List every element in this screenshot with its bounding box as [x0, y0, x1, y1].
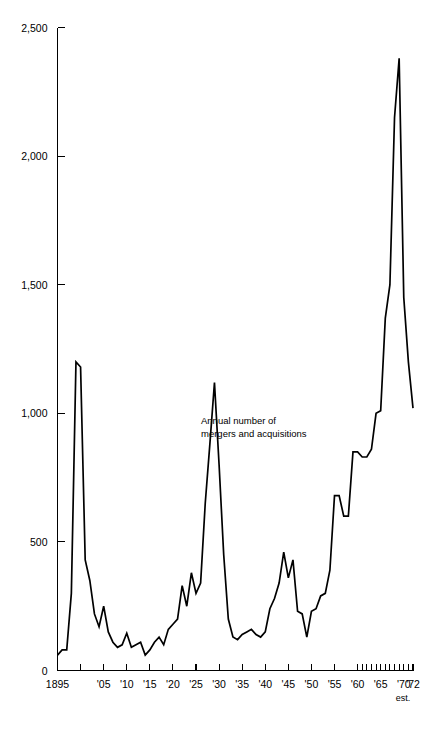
x-tick-label: '25: [189, 678, 203, 690]
chart-svg: 05001,0001,5002,0002,500 1895'05'10'15'2…: [0, 0, 423, 731]
x-tick-label: '10: [120, 678, 134, 690]
y-tick-label: 1,500: [21, 279, 47, 291]
x-tick-label: '55: [328, 678, 342, 690]
y-tick-label: 2,000: [21, 150, 47, 162]
y-axis-tick-labels: 05001,0001,5002,0002,500: [21, 22, 47, 677]
y-axis-group: 05001,0001,5002,0002,500: [21, 22, 64, 677]
mergers-acquisitions-chart: 05001,0001,5002,0002,500 1895'05'10'15'2…: [0, 0, 423, 731]
y-tick-label: 0: [42, 665, 48, 677]
x-tick-label: '30: [212, 678, 226, 690]
x-tick-label: '40: [258, 678, 272, 690]
y-tick-label: 500: [30, 536, 48, 548]
y-axis-ticks: [58, 28, 65, 671]
series-line-mergers: [58, 58, 414, 655]
x-tick-label: '60: [351, 678, 365, 690]
x-axis-minor-ticks: [362, 664, 408, 671]
x-tick-label: '20: [166, 678, 180, 690]
x-tick-label: '35: [235, 678, 249, 690]
x-axis-group: 1895'05'10'15'20'25'30'35'40'45'50'55'60…: [46, 664, 420, 690]
x-tick-label: '72: [406, 678, 420, 690]
x-tick-label: '65: [374, 678, 388, 690]
x-tick-label: '45: [282, 678, 296, 690]
y-tick-label: 2,500: [21, 22, 47, 34]
x-axis-tick-labels: 1895'05'10'15'20'25'30'35'40'45'50'55'60…: [46, 678, 420, 690]
x-tick-label: '05: [97, 678, 111, 690]
estimate-footnote: est.: [396, 693, 411, 703]
x-tick-label: '50: [305, 678, 319, 690]
x-tick-label: '15: [143, 678, 157, 690]
y-tick-label: 1,000: [21, 407, 47, 419]
x-axis-ticks: [58, 664, 414, 671]
annotation-line-2: mergers and acquisitions: [201, 428, 307, 439]
x-tick-label: 1895: [46, 678, 70, 690]
annotation-line-1: Annual number of: [201, 415, 276, 426]
